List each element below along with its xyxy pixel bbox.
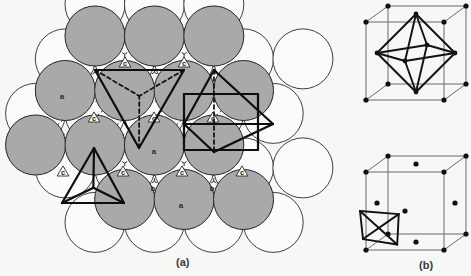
octahedral-site-label: c: [152, 114, 156, 123]
octahedral-site-label: c: [240, 168, 244, 177]
lattice-atom: [463, 81, 468, 86]
lattice-atom: [441, 169, 446, 174]
tetrahedral-site-label: b: [151, 184, 156, 193]
tetrahedral-site-label: b: [210, 184, 215, 193]
sphere-gray: [65, 6, 125, 66]
lattice-atom: [403, 59, 408, 64]
lattice-atom: [363, 169, 368, 174]
octahedral-site-label: c: [211, 114, 215, 123]
sphere-white: [273, 29, 333, 89]
caption-a: (a): [176, 256, 190, 268]
lattice-atom: [463, 153, 468, 158]
lattice-atom: [363, 97, 368, 102]
lattice-atom: [425, 43, 430, 48]
lattice-atom: [402, 208, 407, 213]
lattice-atom: [413, 239, 418, 244]
sphere-gray: [6, 115, 66, 175]
lattice-atom: [413, 161, 418, 166]
lattice-atom: [363, 247, 368, 252]
sphere-gray: [124, 115, 184, 175]
sphere-gray: [95, 170, 155, 230]
lattice-atom: [414, 12, 419, 17]
lattice-atom: [375, 51, 380, 56]
lattice-atom: [363, 19, 368, 24]
layer-label: a: [152, 147, 157, 156]
lattice-atom: [441, 19, 446, 24]
octahedral-site-label: c: [123, 59, 127, 68]
lattice-atom: [453, 51, 458, 56]
lattice-atom: [452, 200, 457, 205]
lattice-atom: [463, 3, 468, 8]
octahedral-site-label: c: [121, 168, 125, 177]
sphere-gray: [214, 170, 274, 230]
octahedral-site-label: c: [180, 168, 184, 177]
lattice-atom: [374, 200, 379, 205]
polyhedron-edge: [93, 148, 94, 188]
lattice-atom: [385, 81, 390, 86]
layer-label: a: [179, 201, 184, 210]
sphere-white: [273, 138, 333, 198]
octahedral-site-label: c: [182, 59, 186, 68]
figure-svg: cccccccccbbaaa (a) (b): [0, 0, 471, 276]
sphere-gray: [124, 6, 184, 66]
octahedral-site-label: c: [92, 114, 96, 123]
octahedral-site-label: c: [61, 168, 65, 177]
sphere-gray: [214, 61, 274, 121]
layer-label: a: [60, 92, 65, 101]
sphere-gray: [65, 115, 125, 175]
figure-root: cccccccccbbaaa (a) (b): [0, 0, 471, 276]
caption-b: (b): [419, 259, 433, 271]
lattice-atom: [385, 3, 390, 8]
lattice-atom: [463, 231, 468, 236]
lattice-atom: [441, 247, 446, 252]
sphere-gray: [35, 61, 95, 121]
lattice-atom: [414, 90, 419, 95]
lattice-atom: [385, 153, 390, 158]
lattice-atom: [441, 97, 446, 102]
sphere-gray: [184, 6, 244, 66]
sphere-gray: [154, 170, 214, 230]
